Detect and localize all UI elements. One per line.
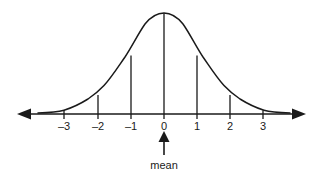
normal-distribution-diagram: –3 –2 –1 0 1 2 3 mean	[0, 0, 320, 181]
x-axis-labels-group: –3 –2 –1 0 1 2 3	[58, 120, 266, 132]
up-arrow-icon	[159, 131, 170, 142]
tick-label-minus2: –2	[92, 120, 104, 132]
tick-label-plus3: 3	[260, 120, 266, 132]
ordinate-lines-group	[64, 13, 263, 114]
tick-label-zero: 0	[161, 120, 167, 132]
tick-label-minus1: –1	[125, 120, 137, 132]
mean-annotation: mean	[150, 131, 178, 171]
mean-label: mean	[150, 159, 178, 171]
tick-label-plus2: 2	[227, 120, 233, 132]
bell-curve-figure: –3 –2 –1 0 1 2 3 mean	[0, 0, 320, 181]
right-arrow-icon	[292, 109, 306, 120]
tick-label-minus3: –3	[58, 120, 70, 132]
tick-label-plus1: 1	[194, 120, 200, 132]
left-arrow-icon	[17, 109, 31, 120]
